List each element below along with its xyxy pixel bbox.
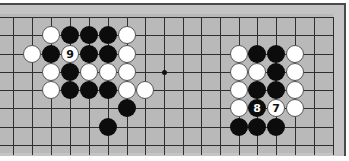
black-stone (80, 45, 98, 63)
white-stone (118, 63, 136, 81)
black-stone (80, 26, 98, 44)
white-stone (99, 63, 117, 81)
white-stone (286, 99, 304, 117)
grid-line-vertical (183, 17, 184, 155)
grid-line-vertical (333, 17, 334, 155)
white-stone-move-9: 9 (61, 45, 79, 63)
grid-line-vertical (164, 17, 165, 155)
black-stone (248, 45, 266, 63)
black-stone (267, 45, 285, 63)
black-stone (267, 81, 285, 99)
black-stone (42, 45, 60, 63)
go-board: 987 (0, 0, 349, 161)
white-stone (42, 63, 60, 81)
black-stone (99, 81, 117, 99)
black-stone (248, 81, 266, 99)
black-stone (99, 45, 117, 63)
black-stone (61, 81, 79, 99)
black-stone (80, 81, 98, 99)
black-stone (99, 118, 117, 136)
white-stone (230, 63, 248, 81)
white-stone (118, 26, 136, 44)
white-stone (230, 81, 248, 99)
white-stone (118, 45, 136, 63)
star-point (162, 70, 167, 75)
white-stone (118, 81, 136, 99)
black-stone (267, 63, 285, 81)
grid-line-vertical (201, 17, 202, 155)
white-stone (248, 63, 266, 81)
grid-line-vertical (13, 17, 14, 155)
grid-line-vertical (314, 17, 315, 155)
black-stone (61, 26, 79, 44)
white-stone-move-7: 7 (267, 99, 285, 117)
white-stone (23, 45, 41, 63)
white-stone (230, 99, 248, 117)
grid-line-vertical (220, 17, 221, 155)
white-stone (286, 45, 304, 63)
white-stone (80, 63, 98, 81)
black-stone (99, 26, 117, 44)
black-stone (118, 99, 136, 117)
black-stone (267, 118, 285, 136)
white-stone (286, 63, 304, 81)
black-stone-move-8: 8 (248, 99, 266, 117)
grid-line-vertical (32, 17, 33, 155)
black-stone (230, 118, 248, 136)
white-stone (136, 81, 154, 99)
white-stone (286, 81, 304, 99)
black-stone (248, 118, 266, 136)
white-stone (42, 81, 60, 99)
black-stone (61, 63, 79, 81)
white-stone (42, 26, 60, 44)
white-stone (230, 45, 248, 63)
